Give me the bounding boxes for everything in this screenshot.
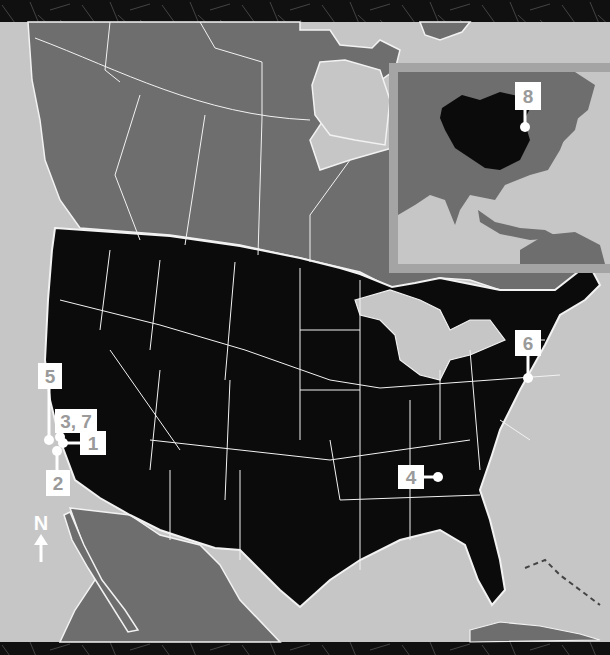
marker-dot: [44, 435, 54, 445]
marker-dot: [520, 122, 530, 132]
marker-dot: [52, 446, 62, 456]
asia-inset: [389, 63, 610, 273]
map-figure: N 123, 74568: [0, 0, 610, 655]
bottom-frame-band: [0, 642, 610, 655]
marker-label: 4: [406, 467, 417, 488]
marker-dot: [55, 432, 65, 442]
map-canvas: N 123, 74568: [0, 0, 610, 655]
north-label: N: [34, 512, 48, 534]
marker-label: 3, 7: [60, 411, 92, 432]
marker-dot: [433, 472, 443, 482]
top-frame-band: [0, 0, 610, 22]
marker-label: 5: [45, 366, 56, 387]
marker-label: 6: [523, 333, 534, 354]
marker-label: 8: [523, 86, 534, 107]
marker-label: 1: [88, 433, 99, 454]
marker-label: 2: [53, 473, 64, 494]
marker-dot: [523, 373, 533, 383]
